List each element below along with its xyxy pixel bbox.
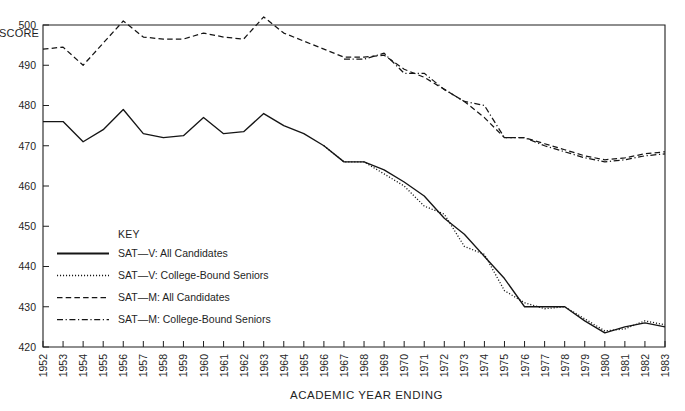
legend-entry-label: SAT—V: All Candidates (118, 247, 228, 259)
legend-entry-label: SAT—M: College-Bound Seniors (118, 313, 271, 325)
x-tick-label: 1971 (418, 354, 430, 378)
x-tick-label: 1969 (378, 354, 390, 378)
x-tick-label: 1959 (177, 354, 189, 378)
legend-entry-label: SAT—V: College-Bound Seniors (118, 269, 269, 281)
y-tick-label: 430 (18, 301, 36, 313)
chart-canvas: SCORE 420430440450460470480490500 195219… (0, 0, 685, 411)
x-tick-label: 1970 (398, 354, 410, 378)
x-tick-label: 1966 (318, 354, 330, 378)
x-tick-label: 1955 (97, 354, 109, 378)
x-tick-label: 1983 (659, 354, 671, 378)
legend-title: KEY (118, 228, 140, 240)
x-tick-label: 1974 (478, 354, 490, 378)
x-tick-label: 1973 (458, 354, 470, 378)
x-tick-label: 1953 (57, 354, 69, 378)
x-axis-title: ACADEMIC YEAR ENDING (290, 389, 443, 401)
y-tick-label: 480 (18, 99, 36, 111)
series-line-dashdot (344, 53, 665, 162)
x-tick-label: 1967 (338, 354, 350, 378)
y-axis-ticks: 420430440450460470480490500 (18, 19, 49, 353)
x-tick-label: 1963 (258, 354, 270, 378)
x-tick-label: 1965 (298, 354, 310, 378)
y-tick-label: 470 (18, 140, 36, 152)
series-line-dashed (43, 17, 665, 160)
x-tick-label: 1961 (218, 354, 230, 378)
x-tick-label: 1979 (579, 354, 591, 378)
x-tick-label: 1956 (117, 354, 129, 378)
x-tick-label: 1954 (77, 354, 89, 378)
x-tick-label: 1957 (137, 354, 149, 378)
y-tick-label: 460 (18, 180, 36, 192)
series-line-dotted (324, 146, 665, 331)
x-tick-label: 1977 (539, 354, 551, 378)
data-series-group (43, 17, 665, 333)
chart-legend: KEY SAT—V: All CandidatesSAT—V: College-… (57, 228, 271, 325)
x-tick-label: 1952 (37, 354, 49, 378)
y-tick-label: 420 (18, 341, 36, 353)
x-tick-label: 1962 (238, 354, 250, 378)
x-tick-label: 1978 (559, 354, 571, 378)
x-tick-label: 1960 (198, 354, 210, 378)
y-tick-label: 440 (18, 260, 36, 272)
y-tick-label: 450 (18, 220, 36, 232)
sat-score-trend-chart: SCORE 420430440450460470480490500 195219… (0, 0, 685, 411)
y-tick-label: 500 (18, 19, 36, 31)
x-tick-label: 1981 (619, 354, 631, 378)
y-tick-label: 490 (18, 59, 36, 71)
x-tick-label: 1964 (278, 354, 290, 378)
x-tick-label: 1972 (438, 354, 450, 378)
x-tick-label: 1976 (519, 354, 531, 378)
x-tick-label: 1982 (639, 354, 651, 378)
legend-entry-label: SAT—M: All Candidates (118, 291, 230, 303)
x-tick-label: 1968 (358, 354, 370, 378)
x-tick-label: 1980 (599, 354, 611, 378)
x-tick-label: 1975 (498, 354, 510, 378)
x-tick-label: 1958 (157, 354, 169, 378)
